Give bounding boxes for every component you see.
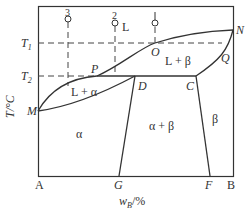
region-liquid: L — [122, 20, 129, 34]
t2-label: T2 — [21, 69, 32, 85]
point-c: C — [186, 79, 195, 93]
region-beta: β — [212, 112, 218, 126]
point-f: F — [204, 178, 213, 192]
region-l-beta: L + β — [165, 54, 191, 68]
region-alpha-beta: α + β — [149, 119, 174, 133]
axis-end-b: B — [227, 178, 235, 192]
region-alpha: α — [76, 127, 83, 141]
t1-label: T1 — [21, 36, 32, 52]
alloy-2-label: 2 — [112, 10, 117, 21]
beta-solvus — [196, 76, 210, 176]
phase-diagram: T1 T2 T/°C M N O P Q D C G F A B wB/% 3 … — [0, 0, 249, 212]
point-d: D — [137, 79, 147, 93]
x-axis-label: wB/% — [119, 194, 145, 210]
point-q: Q — [221, 51, 230, 65]
alpha-solvus — [119, 76, 135, 176]
alloy-1-marker — [152, 20, 158, 26]
y-axis-label: T/°C — [3, 94, 17, 118]
point-o: O — [151, 45, 160, 59]
alloy-3-label: 3 — [65, 7, 70, 18]
region-l-alpha: L + α — [71, 85, 98, 99]
point-g: G — [114, 178, 123, 192]
point-m: M — [26, 104, 38, 118]
point-n: N — [235, 23, 245, 37]
axis-end-a: A — [35, 178, 44, 192]
point-p: P — [90, 62, 99, 76]
